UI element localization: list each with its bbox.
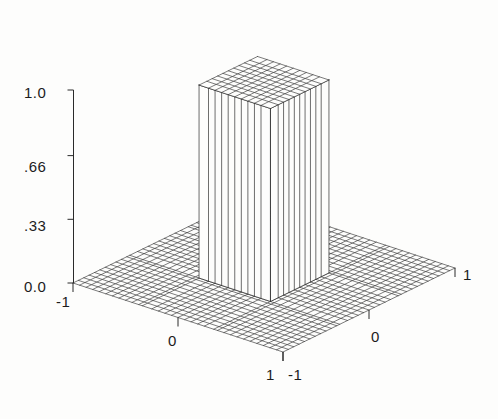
z-tick-label-0-33: .33: [24, 217, 46, 234]
surface-plot-figure: 1.0 .66 .33 0.0 -1 0 1 -1 0 1: [0, 0, 498, 419]
z-tick-label-0-66: .66: [24, 158, 46, 175]
z-tick-label-1-0: 1.0: [24, 84, 46, 101]
z-tick-label-0-0: 0.0: [24, 278, 46, 295]
y-tick-label-minus-1: -1: [288, 366, 302, 383]
x-tick-label-minus-1: -1: [56, 293, 70, 310]
x-tick-label-1: 1: [266, 366, 275, 383]
plateau-walls-mesh: [199, 80, 329, 302]
y-tick-label-1: 1: [463, 266, 472, 283]
x-tick-label-0: 0: [168, 332, 177, 349]
surface-plot-canvas: [0, 0, 498, 419]
y-tick-label-0: 0: [371, 328, 380, 345]
